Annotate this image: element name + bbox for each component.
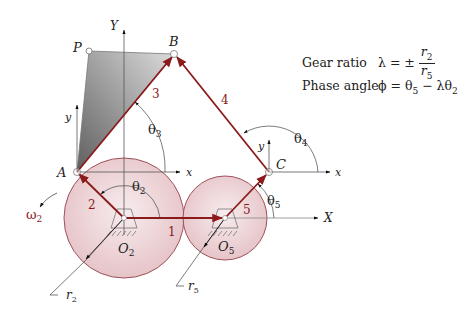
label-link-2: 2 (88, 198, 96, 212)
joint-C (266, 169, 273, 176)
label-y-C: y (257, 140, 265, 153)
phase-angle-label: Phase angle (302, 78, 374, 93)
link-4-vector (177, 57, 269, 172)
phase-angle-expr: ϕ = θ5 − λθ2 (378, 78, 458, 93)
label-theta4: θ4 (294, 131, 308, 148)
joint-P (86, 48, 92, 54)
label-X: X (323, 211, 333, 225)
label-C: C (276, 157, 286, 172)
label-Y: Y (110, 19, 119, 33)
phase-angle-equation: Phase angle ϕ = θ5 − λθ2 (302, 78, 458, 96)
joint-O2 (122, 216, 127, 221)
label-x-C: x (335, 166, 342, 179)
label-link-1: 1 (168, 225, 176, 239)
label-r2: r2 (66, 288, 77, 304)
label-omega2: ω2 (26, 207, 42, 224)
gear-ratio-lhs: λ = ± (378, 55, 415, 70)
joint-O5 (223, 216, 228, 221)
label-B: B (168, 34, 179, 49)
label-theta3: θ3 (148, 122, 162, 139)
gear-ratio-fraction: r2 r5 (419, 46, 435, 80)
label-r5: r5 (188, 279, 199, 295)
label-link-3: 3 (152, 87, 160, 101)
omega2-arrow (40, 193, 57, 207)
joint-B (171, 51, 178, 58)
label-x-A: x (186, 166, 193, 179)
label-link-5: 5 (243, 203, 251, 217)
label-y-A: y (64, 111, 72, 124)
label-P: P (72, 40, 82, 55)
label-link-4: 4 (221, 93, 229, 107)
joint-A (74, 169, 81, 176)
gear-ratio-equation: Gear ratio λ = ± r2 r5 (302, 46, 435, 80)
label-A: A (56, 165, 66, 180)
label-theta5: θ5 (267, 193, 281, 210)
gear-ratio-label: Gear ratio (302, 55, 374, 70)
